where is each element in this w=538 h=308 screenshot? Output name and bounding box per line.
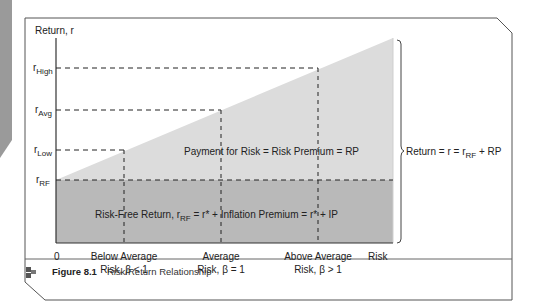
figure-square-icon [26,267,37,278]
x-tick-above-average: Above AverageRisk, β > 1 [284,251,352,275]
risk-free-label: Risk-Free Return, rRF = r* + Inflation P… [95,209,338,220]
return-bracket [397,40,404,243]
y-axis-title: Return, r [35,25,74,36]
total-return-label: Return = r = rRF + RP [406,146,501,157]
y-tick-r-low: rLow [34,144,52,155]
origin-label: 0 [54,251,60,262]
y-tick-r-rf: rRF [36,174,50,185]
y-tick-r-avg: rAvg [35,104,52,115]
figure-title: Risk/Return Relationship [107,266,212,277]
figure-number: Figure 8.1 [52,266,97,277]
y-tick-r-high: rHigh [33,62,53,73]
figure-caption: Figure 8.1Risk/Return Relationship [38,266,211,277]
x-axis-title: Risk [368,251,387,262]
risk-premium-label: Payment for Risk = Risk Premium = RP [184,146,359,157]
side-band [0,0,12,158]
